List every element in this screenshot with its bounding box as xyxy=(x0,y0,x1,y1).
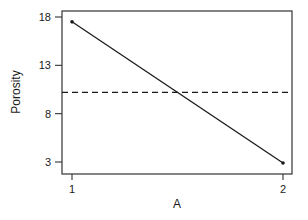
x-axis-label: A xyxy=(173,197,181,211)
y-tick-label: 13 xyxy=(39,59,51,71)
y-tick-label: 8 xyxy=(45,108,51,120)
x-axis-ticks: 12 xyxy=(69,174,286,195)
y-axis-label: Porosity xyxy=(9,70,23,113)
main-effects-plot: 381318 12 A Porosity xyxy=(0,0,308,220)
x-tick-label: 2 xyxy=(280,183,286,195)
y-tick-label: 3 xyxy=(45,156,51,168)
y-tick-label: 18 xyxy=(39,11,51,23)
x-tick-label: 1 xyxy=(69,183,75,195)
y-axis-ticks: 381318 xyxy=(39,11,62,168)
data-point xyxy=(70,20,74,24)
data-point xyxy=(281,161,285,165)
